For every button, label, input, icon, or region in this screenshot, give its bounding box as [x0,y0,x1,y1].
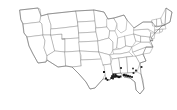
us-states-map [0,0,177,110]
data-point-marker [123,74,125,76]
data-point-marker [112,78,114,80]
us-map-figure [0,0,177,110]
data-point-marker [107,79,109,81]
data-point-marker [125,74,127,76]
state-washington [20,8,41,24]
data-point-marker [103,71,105,73]
data-point-marker [135,70,137,72]
state-kansas [79,41,99,52]
data-point-marker [120,67,122,69]
state-california [27,35,47,63]
data-point-marker [129,76,131,78]
data-point-marker [131,76,133,78]
state-boundaries-layer [20,8,172,94]
state-south-dakota [78,21,96,33]
state-nebraska [79,32,98,42]
data-point-marker [115,74,117,76]
data-point-marker [120,76,122,78]
state-new-mexico [65,51,81,67]
data-point-marker [113,74,115,76]
state-rhode-island [160,29,163,32]
data-point-marker [127,75,129,77]
state-minnesota [94,10,108,28]
state-north-dakota [76,10,95,22]
data-point-marker [133,72,135,74]
data-point-marker [141,66,143,68]
state-oregon [23,22,43,37]
data-point-marker [132,68,134,70]
